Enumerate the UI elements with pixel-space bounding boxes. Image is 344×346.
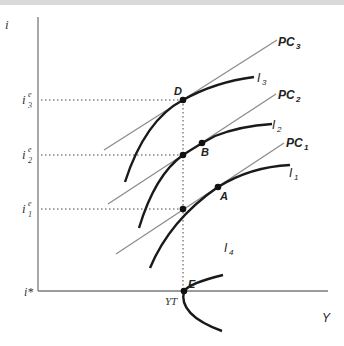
dotted-guides <box>41 100 183 291</box>
svg-text:i: i <box>22 92 26 107</box>
svg-text:1: 1 <box>304 143 309 152</box>
svg-text:PC: PC <box>286 136 303 150</box>
svg-text:I: I <box>272 118 276 132</box>
point-d-label: D <box>174 85 182 97</box>
svg-text:2: 2 <box>276 125 282 134</box>
svg-text:3: 3 <box>296 42 301 51</box>
i2e-label: i 2 e <box>22 145 32 165</box>
svg-text:4: 4 <box>229 248 234 257</box>
baseline-label: i* <box>24 285 33 299</box>
y-axis-label: i <box>5 17 9 32</box>
point-i1e <box>180 206 187 213</box>
yt-label: YT <box>165 295 178 307</box>
svg-text:1: 1 <box>28 210 32 219</box>
i2-label: I 2 <box>272 118 282 134</box>
svg-text:I: I <box>224 241 228 255</box>
svg-text:PC: PC <box>278 88 295 102</box>
svg-text:e: e <box>28 90 32 99</box>
point-d <box>180 97 187 104</box>
i4-label: I 4 <box>224 241 234 257</box>
svg-text:3: 3 <box>262 78 267 87</box>
svg-text:I: I <box>289 166 293 180</box>
point-b-label: B <box>201 146 209 158</box>
i3e-label: i 3 e <box>22 90 32 110</box>
svg-text:2: 2 <box>28 156 32 165</box>
svg-text:e: e <box>28 145 32 154</box>
pc1-label: PC 1 <box>286 136 309 152</box>
svg-text:2: 2 <box>295 95 301 104</box>
i3-label: I 3 <box>257 71 267 87</box>
i1-curve <box>150 165 290 268</box>
point-e <box>181 288 188 295</box>
diagram-canvas: i Y i* YT i 3 e i 2 e i 1 e PC 3 PC 2 PC… <box>0 0 344 346</box>
svg-text:PC: PC <box>278 35 295 49</box>
svg-text:i: i <box>22 147 26 162</box>
x-axis-label: Y <box>322 311 331 325</box>
i1-label: I 1 <box>289 166 298 182</box>
svg-text:3: 3 <box>27 101 32 110</box>
svg-text:I: I <box>257 71 261 85</box>
point-e-label: E <box>188 278 196 290</box>
pc2-label: PC 2 <box>278 88 301 104</box>
point-a-label: A <box>219 190 228 202</box>
pc1-line <box>116 143 284 254</box>
pc3-label: PC 3 <box>278 35 301 51</box>
point-i2e <box>180 152 187 159</box>
svg-text:e: e <box>28 199 32 208</box>
svg-text:1: 1 <box>294 173 298 182</box>
i1e-label: i 1 e <box>22 199 32 219</box>
svg-text:i: i <box>22 201 26 216</box>
